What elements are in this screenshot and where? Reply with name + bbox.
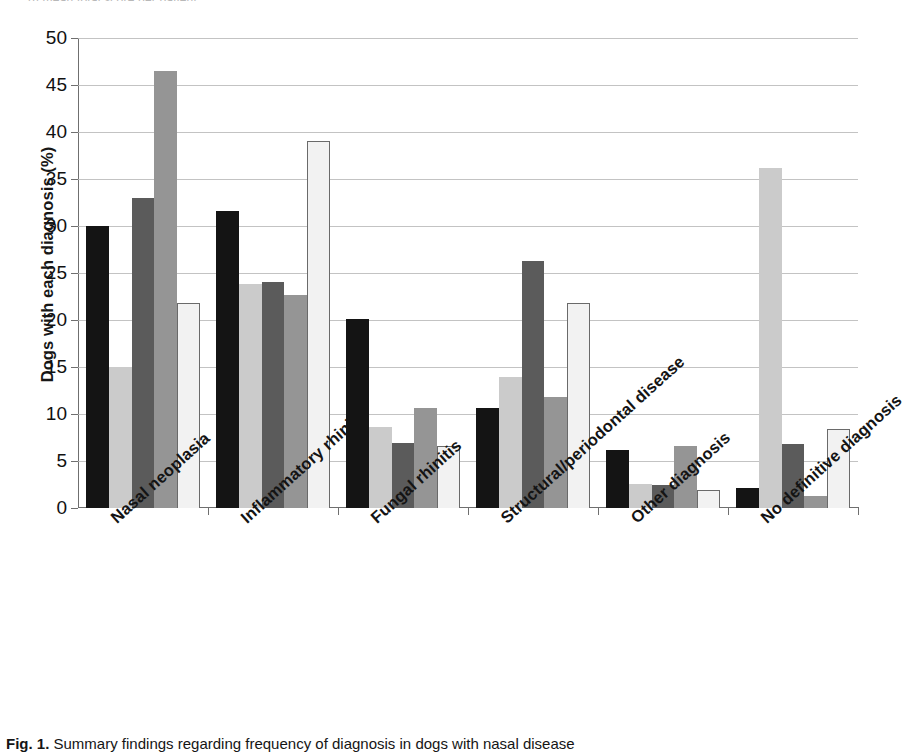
x-axis-tick [858,508,859,515]
bar[interactable] [522,261,545,508]
y-axis-tick [71,414,78,415]
y-axis-tick-label: 10 [46,403,67,425]
bar[interactable] [759,168,782,508]
bar-group [728,38,858,508]
bar[interactable] [736,488,759,508]
bar-group [78,38,208,508]
bar[interactable] [86,226,109,508]
y-axis-tick-label: 15 [46,356,67,378]
x-axis-tick [468,508,469,515]
bar[interactable] [177,303,200,508]
bar[interactable] [132,198,155,508]
x-axis-tick [598,508,599,515]
bar[interactable] [567,303,590,508]
y-axis-tick-label: 5 [56,450,67,472]
caption-text: Summary findings regarding frequency of … [54,735,575,752]
y-axis-tick [71,508,78,509]
y-axis-tick-label: 0 [56,497,67,519]
bar[interactable] [499,377,522,508]
y-axis-tick-label: 30 [46,215,67,237]
y-axis-tick-label: 50 [46,27,67,49]
y-axis-tick [71,320,78,321]
y-axis-tick-label: 25 [46,262,67,284]
bar[interactable] [476,408,499,508]
y-axis-tick-label: 45 [46,74,67,96]
clipped-top-text: b) mean total score per patient [28,0,197,1]
bar[interactable] [109,367,132,508]
y-axis-tick [71,179,78,180]
x-axis-tick [728,508,729,515]
y-axis-tick-label: 20 [46,309,67,331]
caption-label: Fig. 1. [6,735,49,752]
figure-caption: Fig. 1. Summary findings regarding frequ… [6,735,877,755]
y-axis-tick-label: 40 [46,121,67,143]
x-axis-tick [208,508,209,515]
y-axis-tick [71,461,78,462]
bar[interactable] [804,496,827,508]
bar[interactable] [606,450,629,508]
y-axis-tick [71,85,78,86]
bar-group [338,38,468,508]
bar-group [468,38,598,508]
bar[interactable] [697,490,720,508]
y-axis-tick [71,273,78,274]
bar[interactable] [216,211,239,508]
bar-group [208,38,338,508]
bar-group [598,38,728,508]
y-axis-tick [71,132,78,133]
x-axis-tick [338,508,339,515]
y-axis-tick-label: 35 [46,168,67,190]
y-axis-tick [71,367,78,368]
bar[interactable] [154,71,177,508]
y-axis-tick [71,38,78,39]
bar[interactable] [239,284,262,508]
y-axis-tick [71,226,78,227]
